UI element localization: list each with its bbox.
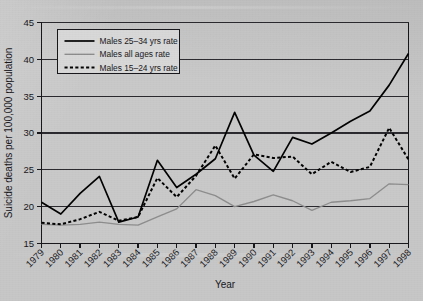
x-tick-label: 1986 (159, 247, 182, 270)
x-tick-label: 1989 (217, 247, 240, 270)
chart-figure: 1520253035404519791980198119821983198419… (0, 0, 423, 301)
x-tick-label: 1990 (236, 247, 259, 270)
legend-label-1: Males all ages rate (100, 49, 171, 59)
x-axis-title: Year (215, 279, 236, 290)
x-tick-label: 1981 (62, 247, 85, 270)
legend-label-0: Males 25–34 yrs rate (100, 36, 179, 46)
y-tick-label: 45 (23, 17, 34, 28)
x-tick-label: 1992 (274, 247, 297, 270)
y-tick-label: 40 (23, 54, 34, 65)
x-tick-label: 1984 (120, 247, 143, 270)
x-tick-label: 1982 (81, 247, 104, 270)
x-tick-label: 1987 (178, 247, 201, 270)
x-tick-label: 1994 (313, 247, 336, 270)
x-tick-label: 1991 (255, 247, 278, 270)
x-tick-label: 1980 (43, 247, 66, 270)
y-tick-label: 15 (23, 238, 34, 249)
y-tick-label: 30 (23, 127, 34, 138)
x-tick-label: 1996 (352, 247, 375, 270)
y-axis-title: Suicide deaths per 100,000 population (3, 48, 14, 219)
x-tick-label: 1983 (101, 247, 124, 270)
y-tick-label: 35 (23, 91, 34, 102)
x-tick-label: 1995 (332, 247, 355, 270)
x-tick-label: 1979 (23, 247, 46, 270)
legend-label-2: Males 15–24 yrs rate (100, 63, 179, 73)
x-tick-label: 1988 (197, 247, 220, 270)
y-tick-label: 20 (23, 201, 34, 212)
x-tick-label: 1993 (294, 247, 317, 270)
y-tick-label: 25 (23, 164, 34, 175)
line-chart: 1520253035404519791980198119821983198419… (0, 0, 423, 301)
x-tick-label: 1985 (139, 247, 162, 270)
x-tick-label: 1998 (390, 247, 413, 270)
x-tick-label: 1997 (371, 247, 394, 270)
